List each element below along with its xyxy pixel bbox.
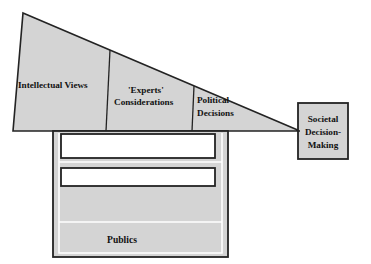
diagram-canvas: Intellectual Views 'Experts' Considerati… [0, 0, 371, 264]
publics-label: Publics [107, 234, 137, 245]
outcome-box-label-line2: Decision- [305, 127, 341, 137]
segment-label-experts-considerations-line2: Considerations [114, 97, 174, 107]
outcome-box-label-line3: Making [308, 140, 339, 150]
segment-label-experts-considerations-line1: 'Experts' [128, 85, 164, 95]
diagram-root: Intellectual Views 'Experts' Considerati… [0, 0, 371, 264]
outcome-box-label-line1: Societal [308, 114, 339, 124]
empty-bar-top[interactable] [61, 134, 215, 158]
segment-label-political-decisions-line1: Political [197, 95, 230, 105]
segment-label-intellectual-views: Intellectual Views [18, 80, 88, 90]
empty-bar-bottom[interactable] [61, 168, 215, 186]
knowledge-wedge-shape [13, 13, 300, 131]
segment-label-political-decisions-line2: Decisions [197, 108, 234, 118]
